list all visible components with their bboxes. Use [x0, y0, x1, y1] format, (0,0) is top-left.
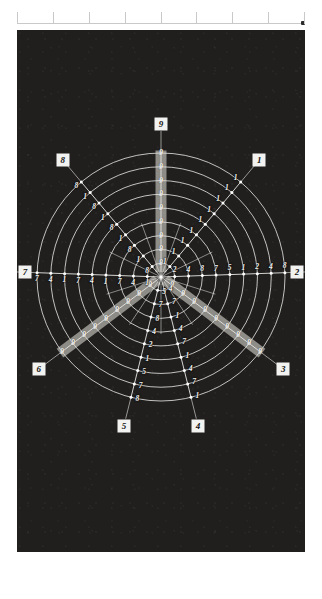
- tick-value-label: 1: [195, 392, 199, 400]
- tick-value-label: 9: [247, 339, 251, 347]
- spoke-label-9[interactable]: 9: [155, 118, 168, 131]
- tick-value-label: 2: [255, 263, 259, 271]
- tick-value-label: 9: [60, 348, 64, 356]
- tick-value-label: 5: [142, 368, 146, 376]
- tick-value-label: 7: [214, 265, 218, 273]
- tick-value-label: 7: [76, 277, 80, 285]
- tick-value-label: 9: [82, 331, 86, 339]
- tick-value-label: 7: [139, 382, 143, 390]
- tick-value-label: 1: [119, 235, 123, 243]
- radar-label-overlay: 9999999991111111112487512489999999994714…: [17, 30, 305, 552]
- spoke-label-8[interactable]: 8: [56, 153, 69, 166]
- top-ruler: [17, 10, 305, 24]
- tick-value-label: 8: [200, 265, 204, 273]
- spoke-label-5[interactable]: 5: [118, 419, 131, 432]
- tick-value-label: 9: [137, 290, 141, 298]
- ruler-tick: [304, 12, 305, 24]
- tick-value-label: 4: [131, 279, 135, 287]
- tick-value-label: 4: [152, 328, 156, 336]
- spoke-label-7[interactable]: 7: [19, 265, 32, 278]
- tick-value-label: 9: [159, 204, 163, 212]
- tick-value-label: 1: [225, 184, 229, 192]
- tick-value-label: 8: [145, 267, 149, 275]
- tick-value-label: 9: [225, 323, 229, 331]
- tick-value-label: 9: [236, 331, 240, 339]
- tick-value-label: 5: [162, 288, 166, 296]
- spoke-label-3[interactable]: 3: [277, 363, 290, 376]
- tick-value-label: 4: [169, 285, 173, 293]
- tick-value-label: 7: [172, 298, 176, 306]
- tick-value-label: 1: [104, 278, 108, 286]
- tick-value-label: 7: [35, 275, 39, 283]
- tick-value-label: 1: [207, 206, 211, 214]
- tick-value-label: 1: [185, 352, 189, 360]
- tick-value-label: 8: [92, 203, 96, 211]
- tick-value-label: 4: [90, 277, 94, 285]
- tick-value-label: 1: [190, 227, 194, 235]
- tick-value-label: 1: [175, 312, 179, 320]
- tick-value-label: 2: [149, 341, 153, 349]
- tick-value-label: 4: [186, 266, 190, 274]
- tick-value-label: 9: [71, 339, 75, 347]
- tick-value-label: 7: [118, 278, 122, 286]
- tick-value-label: 9: [126, 298, 130, 306]
- tick-value-label: 4: [189, 365, 193, 373]
- tick-value-label: 7: [192, 378, 196, 386]
- tick-value-label: 9: [93, 323, 97, 331]
- spoke-label-1[interactable]: 1: [253, 153, 266, 166]
- tick-value-label: 1: [234, 174, 238, 182]
- chart-panel: 9999999991111111112487512489999999994714…: [17, 30, 305, 552]
- tick-value-label: 8: [155, 315, 159, 323]
- ruler-tick: [161, 12, 162, 24]
- tick-value-label: 1: [63, 276, 67, 284]
- tick-value-label: 9: [159, 218, 163, 226]
- tick-value-label: 9: [104, 315, 108, 323]
- tick-value-label: 9: [203, 306, 207, 314]
- ruler-tick: [196, 12, 197, 24]
- tick-value-label: 1: [145, 355, 149, 363]
- tick-value-label: 8: [135, 395, 139, 403]
- spoke-label-6[interactable]: 6: [32, 363, 45, 376]
- tick-value-label: 9: [258, 348, 262, 356]
- tick-value-label: 7: [159, 301, 163, 309]
- tick-value-label: 1: [242, 264, 246, 272]
- tick-value-label: 2: [173, 266, 177, 274]
- tick-value-label: 1: [163, 258, 167, 266]
- tick-value-label: 8: [283, 262, 287, 270]
- tick-value-label: 1: [172, 248, 176, 256]
- tick-value-label: 1: [216, 195, 220, 203]
- tick-value-label: 9: [214, 315, 218, 323]
- tick-value-label: 8: [74, 182, 78, 190]
- spoke-label-2[interactable]: 2: [291, 265, 304, 278]
- tick-value-label: 9: [159, 232, 163, 240]
- ruler-tick: [232, 12, 233, 24]
- ruler-tick: [125, 12, 126, 24]
- ruler-tick: [89, 12, 90, 24]
- tick-value-label: 1: [198, 216, 202, 224]
- tick-value-label: 9: [159, 190, 163, 198]
- ruler-tick: [268, 12, 269, 24]
- ruler-tick: [53, 12, 54, 24]
- tick-value-label: 1: [101, 214, 105, 222]
- tick-value-label: 8: [110, 224, 114, 232]
- tick-value-label: 9: [159, 245, 163, 253]
- tick-value-label: 8: [128, 246, 132, 254]
- tick-value-label: 1: [181, 237, 185, 245]
- tick-value-label: 7: [182, 338, 186, 346]
- tick-value-label: 9: [159, 149, 163, 157]
- tick-value-label: 4: [179, 325, 183, 333]
- tick-value-label: 4: [269, 263, 273, 271]
- tick-value-label: 1: [136, 256, 140, 264]
- tick-value-label: 9: [159, 177, 163, 185]
- tick-value-label: 9: [181, 290, 185, 298]
- tick-value-label: 1: [145, 279, 149, 287]
- spoke-label-4[interactable]: 4: [192, 419, 205, 432]
- tick-value-label: 4: [49, 276, 53, 284]
- ruler-tick: [17, 12, 18, 24]
- tick-value-label: 1: [83, 193, 87, 201]
- tick-value-label: 9: [159, 163, 163, 171]
- tick-value-label: 5: [228, 264, 232, 272]
- tick-value-label: 9: [115, 306, 119, 314]
- tick-value-label: 9: [192, 298, 196, 306]
